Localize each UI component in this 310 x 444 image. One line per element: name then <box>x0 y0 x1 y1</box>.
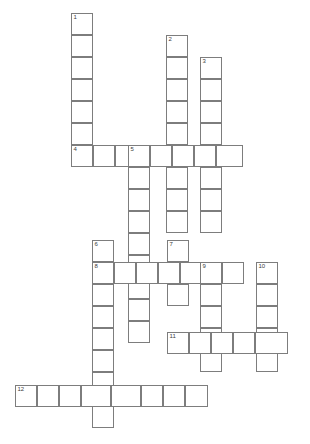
cell-2-7[interactable] <box>166 167 188 189</box>
cell-6-2[interactable]: 8 <box>92 262 114 284</box>
cell-6-9[interactable] <box>92 406 114 428</box>
clue-number-1: 1 <box>74 14 77 21</box>
cell-4-8[interactable] <box>216 145 243 167</box>
cell-12-3[interactable] <box>59 385 81 407</box>
cell-3-1[interactable]: 3 <box>200 57 222 79</box>
clue-number-9: 9 <box>203 263 206 270</box>
clue-number-12: 12 <box>18 386 25 393</box>
cell-5-4[interactable] <box>128 211 150 233</box>
cell-7-1[interactable]: 7 <box>167 240 189 262</box>
cell-6-4[interactable] <box>92 306 114 328</box>
cell-2-5[interactable] <box>166 123 188 145</box>
cell-8-5[interactable] <box>180 262 202 284</box>
cell-4-1[interactable]: 4 <box>71 145 93 167</box>
cell-1-1[interactable]: 1 <box>71 13 93 35</box>
cell-4-7[interactable] <box>194 145 216 167</box>
cell-3-7[interactable] <box>200 189 222 211</box>
clue-number-11: 11 <box>170 333 176 340</box>
cell-4-2[interactable] <box>93 145 115 167</box>
clue-number-7: 7 <box>170 241 173 248</box>
cell-4-6[interactable] <box>172 145 194 167</box>
cell-3-6[interactable] <box>200 167 222 189</box>
cell-11-3[interactable] <box>211 332 233 354</box>
crossword-grid: 123456879101112 <box>0 0 310 444</box>
clue-number-6: 6 <box>95 241 98 248</box>
cell-8-2[interactable] <box>114 262 136 284</box>
cell-6-1[interactable]: 6 <box>92 240 114 262</box>
cell-5-3[interactable] <box>128 189 150 211</box>
cell-2-4[interactable] <box>166 101 188 123</box>
cell-9-2[interactable] <box>200 284 222 306</box>
cell-9-3[interactable] <box>200 306 222 328</box>
cell-10-1[interactable]: 10 <box>256 262 278 284</box>
cell-10-3[interactable] <box>256 306 278 328</box>
cell-12-1[interactable]: 12 <box>15 385 37 407</box>
cell-2-9[interactable] <box>166 211 188 233</box>
cell-2-3[interactable] <box>166 79 188 101</box>
cell-8-6[interactable]: 9 <box>200 262 222 284</box>
cell-12-6[interactable] <box>141 385 163 407</box>
cell-4-5[interactable] <box>150 145 172 167</box>
clue-number-10: 10 <box>259 263 266 270</box>
clue-number-2: 2 <box>169 36 172 43</box>
cell-2-8[interactable] <box>166 189 188 211</box>
cell-1-6[interactable] <box>71 123 93 145</box>
cell-1-3[interactable] <box>71 57 93 79</box>
cell-5-9[interactable] <box>128 321 150 343</box>
cell-6-3[interactable] <box>92 284 114 306</box>
cell-1-4[interactable] <box>71 79 93 101</box>
clue-number-4: 4 <box>74 146 77 153</box>
cell-12-4[interactable] <box>81 385 111 407</box>
cell-11-2[interactable] <box>189 332 211 354</box>
cell-11-1[interactable]: 11 <box>167 332 189 354</box>
cell-10-2[interactable] <box>256 284 278 306</box>
cell-11-5[interactable] <box>255 332 288 354</box>
cell-2-2[interactable] <box>166 57 188 79</box>
clue-number-3: 3 <box>203 58 206 65</box>
cell-7-3[interactable] <box>167 284 189 306</box>
cell-3-2[interactable] <box>200 79 222 101</box>
cell-8-4[interactable] <box>158 262 180 284</box>
clue-number-5: 5 <box>131 146 134 153</box>
cell-12-2[interactable] <box>37 385 59 407</box>
cell-1-5[interactable] <box>71 101 93 123</box>
cell-3-3[interactable] <box>200 101 222 123</box>
cell-5-5[interactable] <box>128 233 150 255</box>
cell-1-2[interactable] <box>71 35 93 57</box>
cell-12-8[interactable] <box>185 385 208 407</box>
cell-6-5[interactable] <box>92 328 114 350</box>
cell-2-1[interactable]: 2 <box>166 35 188 57</box>
cell-3-8[interactable] <box>200 211 222 233</box>
cell-11-4[interactable] <box>233 332 255 354</box>
cell-8-3[interactable] <box>136 262 158 284</box>
cell-4-4[interactable]: 5 <box>128 145 150 167</box>
cell-5-8[interactable] <box>128 299 150 321</box>
cell-3-4[interactable] <box>200 123 222 145</box>
cell-12-7[interactable] <box>163 385 185 407</box>
cell-6-6[interactable] <box>92 350 114 372</box>
cell-8-7[interactable] <box>222 262 244 284</box>
cell-12-5[interactable] <box>111 385 141 407</box>
cell-5-2[interactable] <box>128 167 150 189</box>
clue-number-8: 8 <box>95 263 98 270</box>
